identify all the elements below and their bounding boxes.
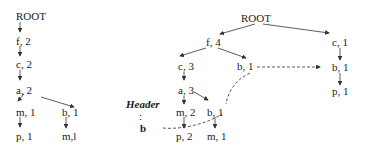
right-node-b-under-a: b, 1 <box>207 106 224 118</box>
right-node-b-under-f: b, 1 <box>237 60 254 72</box>
left-node-p: p, 1 <box>16 130 33 142</box>
left-node-m-under-b: m,l <box>62 130 76 142</box>
left-root-node: ROOT <box>16 10 46 22</box>
right-node-f: f, 4 <box>206 36 221 48</box>
left-node-f: f, 2 <box>16 35 31 47</box>
right-node-a: a, 3 <box>178 84 194 96</box>
left-node-c: c, 2 <box>16 58 32 70</box>
left-node-m: m, 1 <box>16 106 36 118</box>
right-node-p2: p, 2 <box>176 130 193 142</box>
right-node-b-under-c: b, 1 <box>332 61 349 73</box>
right-root-node: ROOT <box>241 12 271 24</box>
right-node-p1: p, 1 <box>332 85 349 97</box>
right-node-c3: c, 3 <box>178 60 194 72</box>
right-node-m2: m, 2 <box>176 106 196 118</box>
header-table-entry-b: b <box>140 122 146 134</box>
right-node-c1: c, 1 <box>332 36 348 48</box>
right-node-m1: m, 1 <box>207 130 227 142</box>
left-node-a: a, 2 <box>16 84 32 96</box>
header-table-title: Header <box>126 98 160 110</box>
left-node-b: b, 1 <box>62 106 79 118</box>
header-table-ellipsis: : <box>139 110 142 122</box>
